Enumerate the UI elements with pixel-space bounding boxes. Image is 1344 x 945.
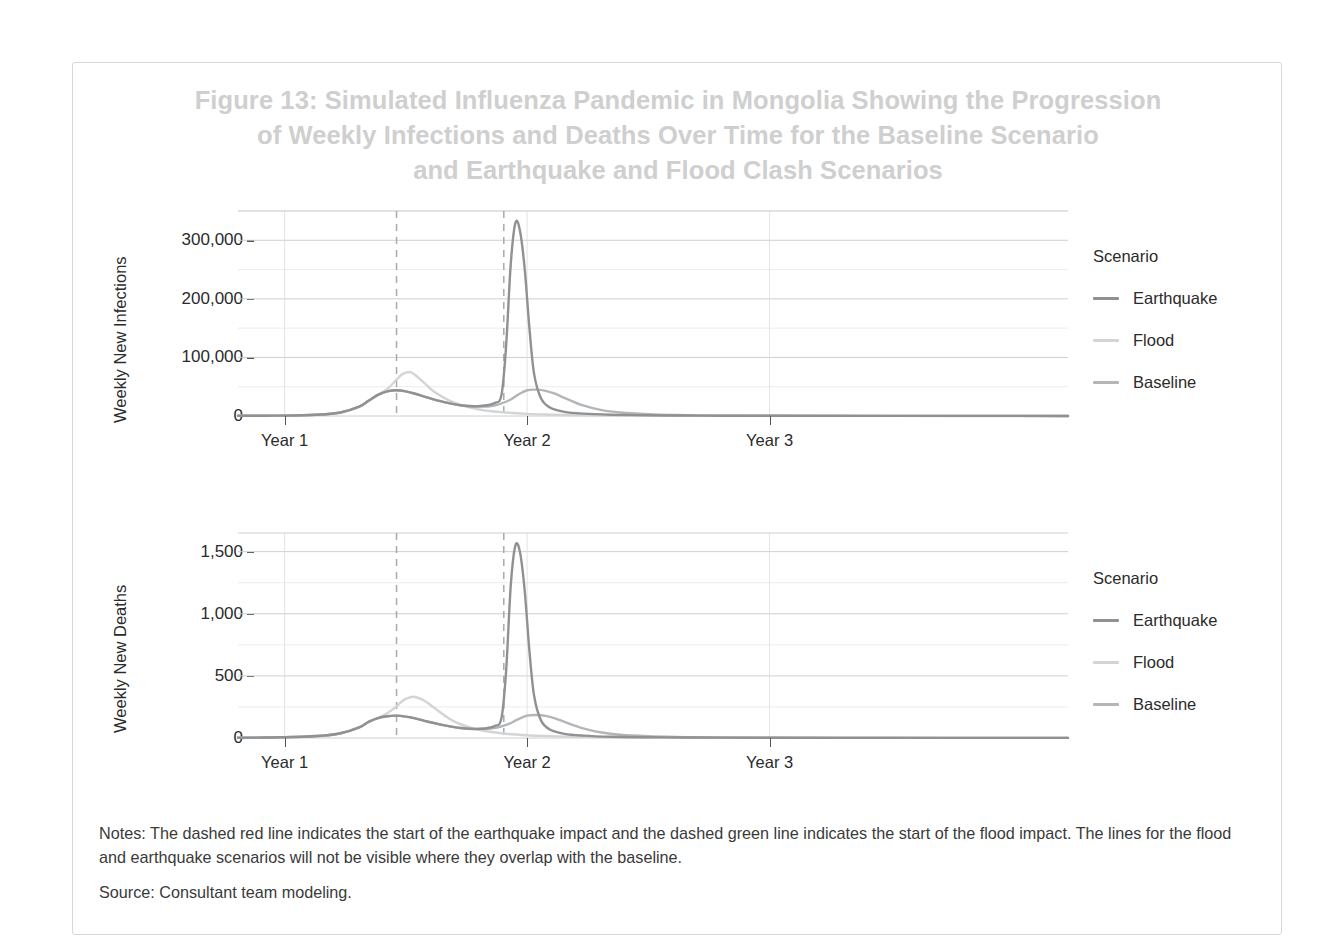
figure-title-line-3: and Earthquake and Flood Clash Scenarios <box>173 153 1183 188</box>
y-tick-labels-deaths: 05001,0001,500 <box>133 533 243 738</box>
chart-weekly-new-infections: Weekly New Infections 0100,000200,000300… <box>73 211 1283 476</box>
y-tick-labels-infections: 0100,000200,000300,000 <box>133 211 243 416</box>
figure-frame: Figure 13: Simulated Influenza Pandemic … <box>72 62 1282 935</box>
x-tick-label: Year 3 <box>746 753 793 772</box>
legend-swatch-icon <box>1093 703 1119 706</box>
x-tick-label: Year 2 <box>504 753 551 772</box>
x-axis-deaths: Year 1Year 2Year 3 <box>238 738 1068 784</box>
x-axis-tick <box>770 738 771 747</box>
legend-item-earthquake[interactable]: Earthquake <box>1093 288 1283 309</box>
x-tick-label: Year 1 <box>261 431 308 450</box>
legend-item-label: Baseline <box>1133 373 1196 392</box>
x-axis-tick <box>285 416 286 425</box>
plot-area-infections <box>238 211 1068 416</box>
chart-weekly-new-deaths: Weekly New Deaths 05001,0001,500 Year 1Y… <box>73 533 1283 798</box>
legend-swatch-icon <box>1093 661 1119 664</box>
legend-swatch-icon <box>1093 381 1119 384</box>
legend-item-label: Flood <box>1133 653 1174 672</box>
legend-swatch-icon <box>1093 297 1119 300</box>
legend-item-label: Earthquake <box>1133 611 1217 630</box>
x-axis-infections: Year 1Year 2Year 3 <box>238 416 1068 462</box>
legend-item-baseline[interactable]: Baseline <box>1093 372 1283 393</box>
plot-svg-deaths <box>238 533 1068 738</box>
x-axis-tick <box>527 738 528 747</box>
legend-item-earthquake[interactable]: Earthquake <box>1093 610 1283 631</box>
figure-page: Figure 13: Simulated Influenza Pandemic … <box>0 0 1344 945</box>
legend-item-label: Flood <box>1133 331 1174 350</box>
legend-deaths: Scenario EarthquakeFloodBaseline <box>1093 569 1283 736</box>
notes-text: Notes: The dashed red line indicates the… <box>99 821 1249 869</box>
legend-item-flood[interactable]: Flood <box>1093 652 1283 673</box>
legend-item-flood[interactable]: Flood <box>1093 330 1283 351</box>
plot-svg-infections <box>238 211 1068 416</box>
legend-item-label: Baseline <box>1133 695 1196 714</box>
y-tick-label: 1,000 <box>200 604 243 624</box>
y-tick-label: 100,000 <box>182 347 243 367</box>
figure-title-line-1: Figure 13: Simulated Influenza Pandemic … <box>173 83 1183 118</box>
legend-item-label: Earthquake <box>1133 289 1217 308</box>
legend-infections: Scenario EarthquakeFloodBaseline <box>1093 247 1283 414</box>
x-axis-tick <box>770 416 771 425</box>
x-axis-tick <box>285 738 286 747</box>
y-tick-label: 200,000 <box>182 289 243 309</box>
legend-title: Scenario <box>1093 247 1283 266</box>
legend-item-baseline[interactable]: Baseline <box>1093 694 1283 715</box>
y-tick-label: 300,000 <box>182 230 243 250</box>
x-tick-label: Year 1 <box>261 753 308 772</box>
x-axis-tick <box>527 416 528 425</box>
legend-rows: EarthquakeFloodBaseline <box>1093 288 1283 393</box>
figure-title: Figure 13: Simulated Influenza Pandemic … <box>173 83 1183 188</box>
source-text: Source: Consultant team modeling. <box>99 880 1249 904</box>
x-tick-label: Year 3 <box>746 431 793 450</box>
legend-rows: EarthquakeFloodBaseline <box>1093 610 1283 715</box>
plot-area-deaths <box>238 533 1068 738</box>
y-axis-title-infections: Weekly New Infections <box>111 256 130 423</box>
legend-swatch-icon <box>1093 339 1119 342</box>
figure-title-line-2: of Weekly Infections and Deaths Over Tim… <box>173 118 1183 153</box>
y-tick-label: 1,500 <box>200 542 243 562</box>
figure-notes: Notes: The dashed red line indicates the… <box>99 821 1249 904</box>
legend-swatch-icon <box>1093 619 1119 622</box>
x-tick-label: Year 2 <box>504 431 551 450</box>
y-axis-title-deaths: Weekly New Deaths <box>111 585 130 733</box>
legend-title: Scenario <box>1093 569 1283 588</box>
